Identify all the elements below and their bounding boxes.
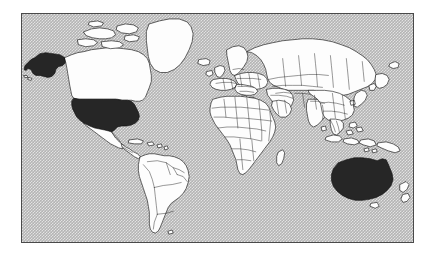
region-canadian-arctic-islands	[78, 21, 140, 49]
region-madagascar	[277, 150, 285, 166]
region-greenland	[146, 19, 193, 73]
region-africa	[210, 96, 276, 174]
world-map-figure	[0, 0, 434, 254]
map-frame	[21, 13, 414, 243]
region-scandinavia	[227, 46, 248, 76]
region-iceland	[198, 59, 210, 66]
region-pacific-islands	[364, 148, 377, 153]
region-aleutian-islands	[24, 75, 32, 80]
region-canada	[65, 48, 152, 102]
region-caribbean-islands	[128, 139, 168, 150]
region-new-zealand	[400, 182, 410, 203]
region-south-america	[138, 154, 189, 233]
region-tasmania	[370, 202, 379, 208]
region-british-isles	[206, 66, 225, 78]
world-map-svg	[22, 14, 413, 242]
region-northeast-siberia	[375, 62, 399, 89]
region-australia	[331, 158, 393, 201]
region-united-states	[72, 98, 140, 132]
region-southeast-asia	[330, 119, 343, 135]
region-sri-lanka	[321, 126, 326, 131]
region-russia	[247, 39, 376, 96]
region-alaska	[24, 53, 66, 78]
region-central-america	[121, 144, 140, 159]
region-falkland-islands	[168, 230, 173, 234]
